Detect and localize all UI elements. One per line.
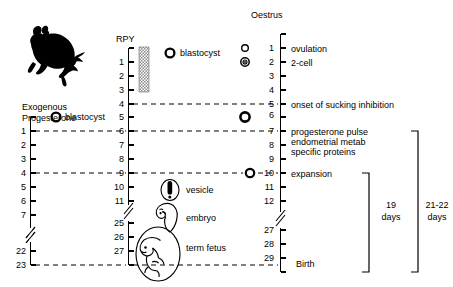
oestrus-axis-break (276, 210, 285, 228)
rpy-blastocyst-marker-icon (166, 49, 175, 58)
rpy-tick-25: 25 (106, 219, 124, 228)
bracket-21-22-days-value: 21-22 (420, 200, 453, 210)
oestrus-header: Oestrus (251, 10, 283, 20)
two-cell-marker-icon (241, 58, 249, 66)
exogenous-progesterone-axis (31, 117, 37, 265)
stage-vesicle-label: vesicle (186, 185, 214, 195)
oestrus-tick-10: 10 (256, 169, 274, 178)
event-specific-proteins-label: specific proteins (291, 147, 356, 157)
oestrus-tick-7: 7 (258, 127, 274, 136)
oestrus-tick-1: 1 (258, 44, 274, 53)
bracket-19-days-unit: days (375, 212, 407, 222)
wallaby-silhouette-icon (28, 26, 85, 87)
oestrus-tick-9: 9 (258, 155, 274, 164)
rpy-axis (129, 48, 135, 265)
event-expansion-label: expansion (291, 169, 332, 179)
term-fetus-drawing-icon (136, 227, 180, 281)
oestrus-tick-2: 2 (258, 58, 274, 67)
event-birth-label: Birth (296, 259, 315, 269)
rpy-tick-6: 6 (108, 127, 124, 136)
vesicle-drawing-icon (161, 180, 179, 201)
rpy-tick-8: 8 (108, 155, 124, 164)
oestrus-axis (281, 34, 287, 272)
rpy-axis-break (124, 203, 133, 221)
ep-tick-5: 5 (10, 183, 26, 192)
embryo-drawing-icon (156, 203, 177, 232)
event-sucking-inhibition-label: onset of sucking inhibition (291, 100, 394, 110)
ep-tick-3: 3 (10, 155, 26, 164)
event-progesterone-pulse-label: progesterone pulse (291, 127, 368, 137)
oestrus-tick-6: 6 (258, 111, 274, 120)
rpy-tick-2: 2 (108, 72, 124, 81)
oestrus-tick-27: 27 (256, 226, 274, 235)
oestrus-tick-5: 5 (258, 100, 274, 109)
rpy-header: RPY (116, 34, 135, 44)
oestrus-tick-28: 28 (256, 240, 274, 249)
ep-tick-22: 22 (8, 247, 26, 256)
rpy-tick-11: 11 (106, 197, 124, 206)
expansion-marker-icon (246, 169, 254, 177)
dashed-connectors (35, 104, 278, 265)
stage-embryo-label: embryo (186, 213, 216, 223)
bracket-21-22-days (411, 131, 418, 272)
oestrus-tick-12: 12 (256, 197, 274, 206)
rpy-tick-3: 3 (108, 86, 124, 95)
left-blastocyst-label: blastocyst (65, 112, 105, 122)
ovulation-marker-icon (242, 45, 249, 52)
stage-term-fetus-label: term fetus (186, 243, 226, 253)
oestrus-tick-3: 3 (258, 72, 274, 81)
ep-tick-23: 23 (8, 261, 26, 270)
event-endometrial-metab-label: endometrial metab (291, 137, 366, 147)
ep-tick-1: 1 (10, 127, 26, 136)
rpy-tick-4: 4 (108, 100, 124, 109)
ep-tick-2: 2 (10, 141, 26, 150)
rpy-tick-10: 10 (106, 183, 124, 192)
oestrus-tick-4: 4 (258, 86, 274, 95)
bracket-19-days-value: 19 (378, 200, 404, 210)
rpy-tick-7: 7 (108, 141, 124, 150)
oestrus-tick-8: 8 (258, 141, 274, 150)
rpy-tick-9: 9 (108, 169, 124, 178)
oestrus-blastocyst-marker-icon (240, 112, 249, 121)
rpy-tick-1: 1 (108, 58, 124, 67)
rpy-shaded-bar (139, 47, 149, 92)
bracket-21-22-days-unit: days (420, 212, 453, 222)
oestrus-tick-29: 29 (256, 254, 274, 263)
ep-tick-6: 6 (10, 197, 26, 206)
rpy-tick-27: 27 (106, 247, 124, 256)
exogenous-progesterone-axis-break (26, 227, 35, 243)
oestrus-tick-11: 11 (256, 183, 274, 192)
rpy-tick-26: 26 (106, 233, 124, 242)
event-ovulation-label: ovulation (291, 44, 327, 54)
rpy-blastocyst-label: blastocyst (180, 48, 220, 58)
ep-tick-7: 7 (10, 211, 26, 220)
ep-tick-4: 4 (10, 169, 26, 178)
bracket-19-days (362, 173, 369, 272)
event-2-cell-label: 2-cell (291, 58, 313, 68)
exogenous-progesterone-header-line1: Exogenous (22, 102, 67, 112)
rpy-tick-5: 5 (108, 113, 124, 122)
